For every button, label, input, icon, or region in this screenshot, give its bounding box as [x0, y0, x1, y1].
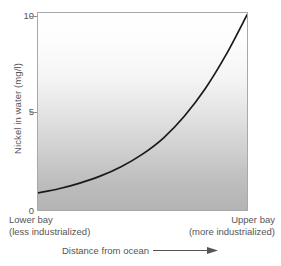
- nickel-vs-distance-chart: Nickel in water (mg/l) 10 5 0 Lower bay …: [0, 0, 281, 266]
- series-line-nickel: [38, 15, 247, 193]
- x-category-right-line2: (more industrialized): [189, 226, 275, 238]
- x-category-right-line1: Upper bay: [189, 214, 275, 226]
- y-tick-mark-5: [30, 112, 37, 113]
- x-category-left: Lower bay (less industrialized): [9, 214, 90, 238]
- x-category-left-line1: Lower bay: [9, 214, 90, 226]
- x-axis-title: Distance from ocean: [0, 245, 281, 256]
- data-curve-svg: [38, 13, 247, 210]
- y-tick-mark-10: [30, 16, 37, 17]
- plot-area: [37, 12, 248, 211]
- x-category-left-line2: (less industrialized): [9, 226, 90, 238]
- arrow-right-icon: [153, 246, 219, 255]
- x-axis-title-label: Distance from ocean: [62, 245, 149, 256]
- x-category-right: Upper bay (more industrialized): [189, 214, 275, 238]
